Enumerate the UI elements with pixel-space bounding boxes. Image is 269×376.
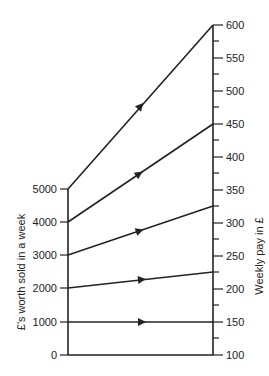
left-tick: 1000	[33, 316, 57, 328]
right-tick: 250	[226, 250, 244, 262]
mapping-lines	[68, 25, 213, 355]
right-tick: 600	[226, 19, 244, 31]
arrow-icon	[138, 275, 147, 284]
left-tick: 4000	[33, 216, 57, 228]
right-tick: 500	[226, 85, 244, 97]
left-axis-label: £'s worth sold in a week	[15, 213, 27, 330]
right-tick: 550	[226, 52, 244, 64]
left-tick: 3000	[33, 249, 57, 261]
right-axis: 600 550 500 450 400 350 300 250 200 150 …	[213, 19, 265, 361]
arrowheads	[134, 100, 147, 326]
right-tick: 300	[226, 217, 244, 229]
right-axis-label: Weekly pay in £	[253, 217, 265, 294]
arrow-icon	[134, 168, 145, 179]
right-tick: 350	[226, 184, 244, 196]
arrow-icon	[138, 318, 146, 326]
right-tick: 150	[226, 316, 244, 328]
left-tick: 5000	[33, 183, 57, 195]
arrow-icon	[135, 226, 145, 236]
left-tick: 2000	[33, 282, 57, 294]
left-tick: 0	[51, 349, 57, 361]
commission-diagram: 0 1000 2000 3000 4000 5000 £'s worth sol…	[0, 0, 269, 376]
right-tick: 400	[226, 151, 244, 163]
right-tick: 450	[226, 118, 244, 130]
left-axis: 0 1000 2000 3000 4000 5000 £'s worth sol…	[15, 183, 68, 361]
right-tick: 200	[226, 283, 244, 295]
right-tick: 100	[226, 349, 244, 361]
